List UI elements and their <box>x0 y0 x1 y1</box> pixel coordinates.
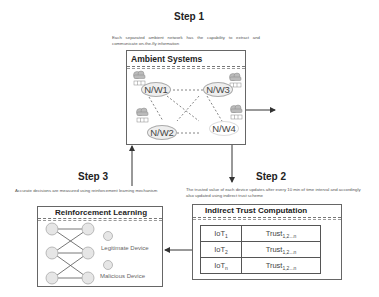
node-circle <box>82 247 94 259</box>
step1-description: Each separated ambient network has the c… <box>112 35 260 47</box>
node-circle <box>46 272 58 284</box>
reinforcement-learning-box: Reinforcement Learning Legitimate Device… <box>37 206 163 287</box>
device-cell: IoT2 <box>201 242 242 258</box>
network-node-nw1: N/W1 <box>141 82 171 97</box>
trust-table: IoT1 Trust1,2...n IoT2 Trust1,2...n IoTn… <box>200 225 321 274</box>
device-cell: IoT1 <box>201 226 242 242</box>
trust-cell: Trust1,2...n <box>242 258 321 274</box>
network-node-nw3: N/W3 <box>203 82 233 97</box>
trust-cell: Trust1,2...n <box>242 242 321 258</box>
malicious-device-legend-circle <box>104 261 113 270</box>
table-row: IoT1 Trust1,2...n <box>201 226 321 242</box>
network-node-nw2: N/W2 <box>147 125 177 140</box>
node-circle <box>82 272 94 284</box>
network-node-nw4: N/W4 <box>209 121 239 136</box>
legitimate-device-label: Legitimate Device <box>101 245 149 251</box>
node-circle <box>46 223 58 235</box>
dashed-separator <box>193 219 341 220</box>
legitimate-device-legend-circle <box>104 232 113 241</box>
step3-description: Accurate decisions are measured using re… <box>15 188 167 194</box>
node-circle <box>82 223 94 235</box>
node-circle <box>46 247 58 259</box>
step2-description: The trusted value of each device updates… <box>186 187 361 199</box>
malicious-device-label: Malicious Device <box>100 273 145 279</box>
table-row: IoTn Trust1,2...n <box>201 258 321 274</box>
cloud-device-icon <box>230 73 242 87</box>
step1-title: Step 1 <box>174 11 204 22</box>
indirect-trust-computation-title: Indirect Trust Computation <box>205 206 307 215</box>
cloud-device-icon <box>134 71 146 85</box>
ambient-systems-box: Ambient Systems <box>126 50 246 145</box>
dashed-separator <box>193 217 341 218</box>
cloud-device-icon <box>137 108 149 122</box>
step3-title: Step 3 <box>78 171 108 182</box>
device-cell: IoTn <box>201 258 242 274</box>
indirect-trust-computation-box: Indirect Trust Computation IoT1 Trust1,2… <box>192 204 342 280</box>
step2-title: Step 2 <box>256 171 286 182</box>
trust-cell: Trust1,2...n <box>242 226 321 242</box>
table-row: IoT2 Trust1,2...n <box>201 242 321 258</box>
cloud-device-icon <box>231 105 243 119</box>
